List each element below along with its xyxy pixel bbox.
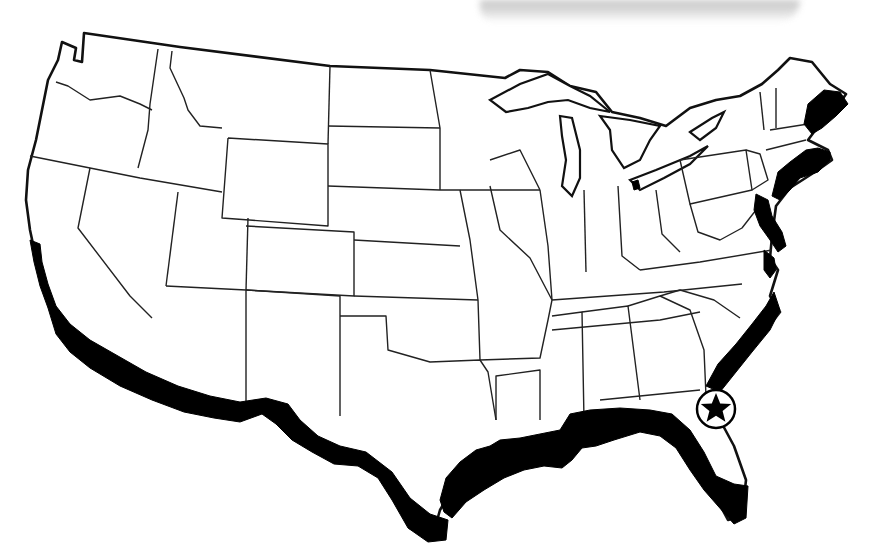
highlight-lake-erie-dot xyxy=(632,180,640,190)
star-marker xyxy=(697,390,735,428)
us-map xyxy=(0,0,873,560)
